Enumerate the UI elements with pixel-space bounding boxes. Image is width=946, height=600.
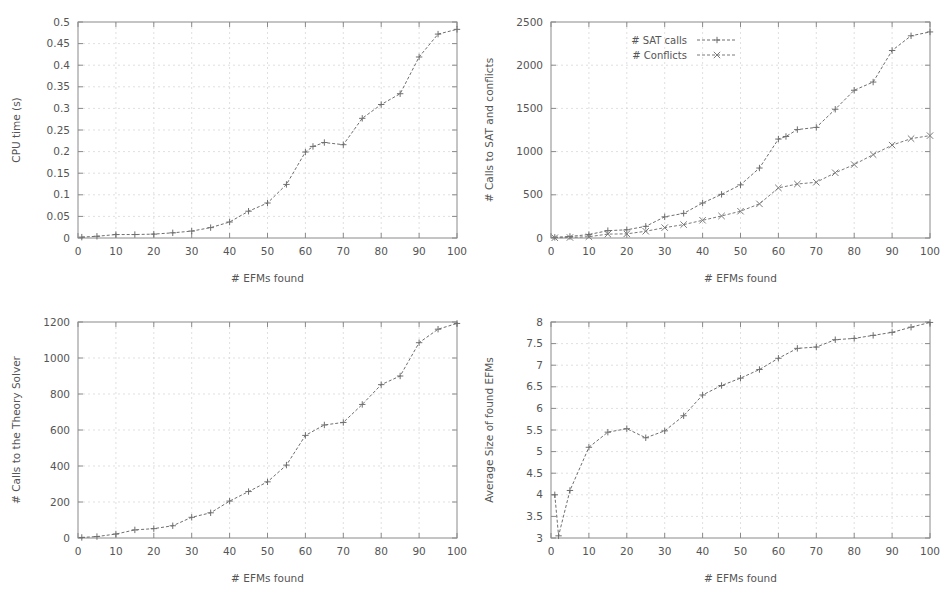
y-tick-label: 1500 [516, 102, 543, 114]
y-tick-label: 5 [536, 445, 543, 457]
x-tick-label: 90 [412, 545, 425, 557]
x-tick-label: 10 [582, 245, 595, 257]
y-tick-label: 1000 [516, 145, 543, 157]
x-tick-label: 100 [920, 245, 940, 257]
y-tick-label: 0.5 [53, 16, 70, 28]
x-tick-label: 0 [548, 545, 555, 557]
x-tick-label: 20 [620, 245, 633, 257]
y-axis-title: # Calls to the Theory Solver [10, 355, 22, 503]
x-tick-label: 90 [412, 245, 425, 257]
series-line [82, 323, 457, 537]
chart-average-efm-size: 010203040506070809010033.544.555.566.577… [473, 300, 946, 600]
plot-frame [551, 22, 930, 238]
y-tick-label: 0 [63, 232, 70, 244]
series-markers [79, 26, 461, 240]
y-tick-label: 8 [536, 316, 543, 328]
x-tick-label: 80 [375, 245, 388, 257]
x-tick-label: 20 [147, 245, 160, 257]
x-axis-title: # EFMs found [704, 272, 777, 284]
y-tick-label: 0.05 [47, 210, 70, 222]
x-tick-label: 10 [109, 245, 122, 257]
series-1 [552, 319, 934, 539]
x-tick-label: 20 [620, 545, 633, 557]
chart-cpu-time: 010203040506070809010000.050.10.150.20.2… [0, 0, 473, 300]
x-tick-label: 50 [261, 245, 274, 257]
series-markers [552, 319, 934, 539]
x-tick-label: 80 [375, 545, 388, 557]
y-tick-label: 600 [50, 424, 70, 436]
x-tick-label: 70 [337, 545, 350, 557]
y-tick-label: 0.4 [53, 59, 70, 71]
y-axis: 05001000150020002500 [516, 16, 930, 244]
series-1 [79, 320, 461, 540]
y-tick-label: 0.15 [47, 167, 70, 179]
y-tick-label: 5.5 [526, 424, 543, 436]
x-tick-label: 40 [223, 245, 236, 257]
gridlines [78, 322, 457, 538]
x-tick-label: 0 [75, 545, 82, 557]
x-axis: 0102030405060708090100 [75, 322, 467, 557]
y-tick-label: 4 [536, 488, 543, 500]
x-tick-label: 0 [75, 245, 82, 257]
x-tick-label: 40 [223, 545, 236, 557]
x-tick-label: 80 [848, 545, 861, 557]
series-2 [552, 132, 934, 241]
y-tick-label: 800 [50, 388, 70, 400]
y-axis-title: CPU time (s) [10, 97, 22, 162]
y-tick-label: 0.45 [47, 37, 70, 49]
y-tick-label: 4.5 [526, 467, 543, 479]
y-tick-label: 0.1 [53, 188, 70, 200]
x-tick-label: 10 [582, 545, 595, 557]
y-tick-label: 0.3 [53, 102, 70, 114]
y-tick-label: 3.5 [526, 510, 543, 522]
x-axis: 0102030405060708090100 [548, 22, 940, 257]
x-tick-label: 40 [696, 545, 709, 557]
series-line [555, 136, 930, 238]
y-tick-label: 0.25 [47, 124, 70, 136]
y-tick-label: 6.5 [526, 380, 543, 392]
x-tick-label: 60 [299, 245, 312, 257]
x-tick-label: 100 [447, 245, 467, 257]
x-axis-title: # EFMs found [704, 572, 777, 584]
x-tick-label: 30 [185, 545, 198, 557]
x-tick-label: 50 [734, 245, 747, 257]
x-tick-label: 20 [147, 545, 160, 557]
y-axis: 00.050.10.150.20.250.30.350.40.450.5 [47, 16, 457, 244]
x-tick-label: 70 [810, 245, 823, 257]
y-axis-title: Average Size of found EFMs [483, 357, 495, 502]
panel-theory-solver-calls: 0102030405060708090100020040060080010001… [0, 300, 473, 600]
y-tick-label: 200 [50, 496, 70, 508]
x-axis-title: # EFMs found [231, 272, 304, 284]
y-tick-label: 1200 [43, 316, 70, 328]
y-tick-label: 400 [50, 460, 70, 472]
x-tick-label: 60 [772, 545, 785, 557]
x-tick-label: 100 [447, 545, 467, 557]
x-tick-label: 100 [920, 545, 940, 557]
y-tick-label: 6 [536, 402, 543, 414]
chart-theory-solver-calls: 0102030405060708090100020040060080010001… [0, 300, 473, 600]
y-tick-label: 2500 [516, 16, 543, 28]
x-axis: 0102030405060708090100 [75, 22, 467, 257]
series-markers [79, 320, 461, 540]
x-tick-label: 40 [696, 245, 709, 257]
x-axis: 0102030405060708090100 [548, 322, 940, 557]
y-tick-label: 500 [523, 188, 543, 200]
x-tick-label: 50 [261, 545, 274, 557]
legend-label: # Conflicts [632, 50, 687, 61]
x-tick-label: 80 [848, 245, 861, 257]
x-tick-label: 60 [299, 545, 312, 557]
x-tick-label: 60 [772, 245, 785, 257]
x-tick-label: 70 [810, 545, 823, 557]
x-tick-label: 50 [734, 545, 747, 557]
y-tick-label: 1000 [43, 352, 70, 364]
x-tick-label: 0 [548, 245, 555, 257]
legend-label: # SAT calls [631, 35, 687, 46]
four-panel-figure: 010203040506070809010000.050.10.150.20.2… [0, 0, 946, 600]
panel-average-efm-size: 010203040506070809010033.544.555.566.577… [473, 300, 946, 600]
x-tick-label: 70 [337, 245, 350, 257]
y-tick-label: 0.2 [53, 145, 70, 157]
series-line [555, 322, 930, 535]
gridlines [551, 22, 930, 238]
x-tick-label: 30 [185, 245, 198, 257]
series-line [82, 29, 457, 237]
